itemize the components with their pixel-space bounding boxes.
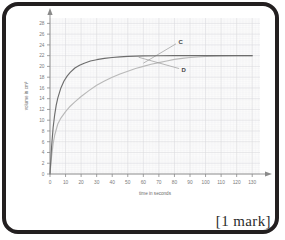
- y-tick-label: 22: [39, 53, 45, 58]
- x-tick-label: 70: [156, 180, 162, 185]
- y-tick-label: 10: [39, 118, 45, 123]
- x-tick-label: 80: [172, 180, 178, 185]
- mark-allocation-note: [1 mark]: [216, 213, 271, 230]
- x-tick-label: 10: [63, 180, 69, 185]
- screenshot-page: 0102030405060708090100110120130024681012…: [0, 0, 285, 240]
- x-tick-label: 100: [202, 180, 210, 185]
- y-tick-label: 14: [39, 96, 45, 101]
- x-tick-label: 40: [110, 180, 116, 185]
- chart-figure: 0102030405060708090100110120130024681012…: [8, 6, 273, 206]
- y-axis-arrowhead: [47, 8, 52, 15]
- x-tick-label: 130: [248, 180, 256, 185]
- y-tick-label: 4: [42, 150, 45, 155]
- y-tick-label: 26: [39, 32, 45, 37]
- x-tick-label: 60: [141, 180, 147, 185]
- x-tick-label: 0: [49, 180, 52, 185]
- y-tick-label: 12: [39, 107, 45, 112]
- volume-vs-time-line-chart: 0102030405060708090100110120130024681012…: [8, 6, 273, 206]
- x-tick-label: 90: [187, 180, 193, 185]
- y-tick-label: 6: [42, 140, 45, 145]
- y-tick-label: 0: [42, 172, 45, 177]
- x-tick-label: 50: [125, 180, 131, 185]
- x-tick-label: 30: [94, 180, 100, 185]
- x-tick-label: 120: [233, 180, 241, 185]
- x-axis-title: time in seconds: [139, 191, 172, 196]
- y-tick-label: 28: [39, 21, 45, 26]
- y-tick-label: 16: [39, 86, 45, 91]
- y-tick-label: 8: [42, 129, 45, 134]
- y-tick-label: 2: [42, 161, 45, 166]
- curve-label-c: C: [178, 39, 183, 45]
- x-axis-arrowhead: [265, 171, 272, 176]
- curve-label-d: D: [182, 67, 187, 73]
- y-tick-label: 24: [39, 43, 45, 48]
- y-tick-label: 20: [39, 64, 45, 69]
- x-tick-label: 20: [78, 180, 84, 185]
- x-tick-label: 110: [217, 180, 225, 185]
- y-axis-title: volume in cm³: [24, 81, 29, 110]
- y-tick-label: 18: [39, 75, 45, 80]
